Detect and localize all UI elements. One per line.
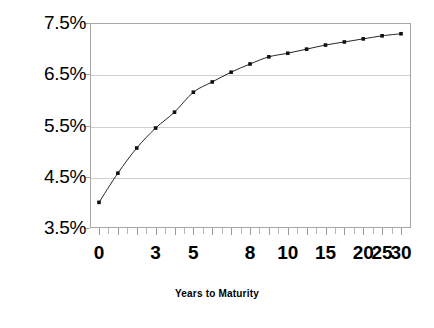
x-axis-minor-tick: [335, 228, 336, 234]
x-axis-title: Years to Maturity: [0, 288, 434, 299]
y-axis-tick-label: 3.5%: [6, 218, 86, 237]
x-axis-minor-tick: [184, 228, 185, 234]
x-axis-minor-tick: [165, 228, 166, 234]
y-axis-tick-label: 7.5%: [6, 13, 86, 32]
x-axis-minor-tick: [259, 228, 260, 234]
x-axis-tick: [288, 228, 289, 235]
x-axis-tick: [382, 228, 383, 235]
plot-area: [90, 23, 411, 228]
gridline: [91, 127, 410, 128]
yield-curve-chart: 7.5%6.5%5.5%4.5%3.5% 03581015202530 Year…: [0, 0, 434, 328]
x-axis-minor-tick: [316, 228, 317, 234]
y-axis-tick-label: 5.5%: [6, 116, 86, 135]
x-axis-tick-label: 15: [306, 243, 346, 262]
x-axis-tick: [99, 228, 100, 235]
x-axis-minor-tick: [222, 228, 223, 234]
x-axis-tick-label: 30: [381, 243, 421, 262]
x-axis-minor-tick: [278, 228, 279, 234]
x-axis-tick: [175, 228, 176, 235]
x-axis-minor-tick: [392, 228, 393, 234]
y-axis-labels: 7.5%6.5%5.5%4.5%3.5%: [0, 0, 86, 328]
x-axis-tick: [137, 228, 138, 235]
x-axis-tick-label: 0: [79, 243, 119, 262]
gridline: [91, 178, 410, 179]
x-axis-minor-tick: [203, 228, 204, 234]
x-axis-tick: [212, 228, 213, 235]
x-axis-minor-tick: [146, 228, 147, 234]
x-axis-tick: [250, 228, 251, 235]
x-axis-tick-label: 10: [268, 243, 308, 262]
x-axis-tick: [193, 228, 194, 235]
x-axis-tick: [269, 228, 270, 235]
x-axis-tick: [326, 228, 327, 235]
x-axis-minor-tick: [127, 228, 128, 234]
x-axis-tick-label: 8: [230, 243, 270, 262]
x-axis-tick: [363, 228, 364, 235]
x-axis-minor-tick: [354, 228, 355, 234]
y-axis-tick-label: 6.5%: [6, 64, 86, 83]
x-axis-tick: [156, 228, 157, 235]
x-axis-tick: [307, 228, 308, 235]
x-axis-tick: [118, 228, 119, 235]
x-axis-minor-tick: [241, 228, 242, 234]
x-axis-tick-label: 3: [136, 243, 176, 262]
y-axis-tick-label: 4.5%: [6, 167, 86, 186]
x-axis-minor-tick: [108, 228, 109, 234]
x-axis-tick: [401, 228, 402, 235]
x-axis-tick: [344, 228, 345, 235]
x-axis-tick: [231, 228, 232, 235]
x-axis-tick-label: 5: [173, 243, 213, 262]
gridline: [91, 75, 410, 76]
x-axis-minor-tick: [373, 228, 374, 234]
x-axis-minor-tick: [297, 228, 298, 234]
